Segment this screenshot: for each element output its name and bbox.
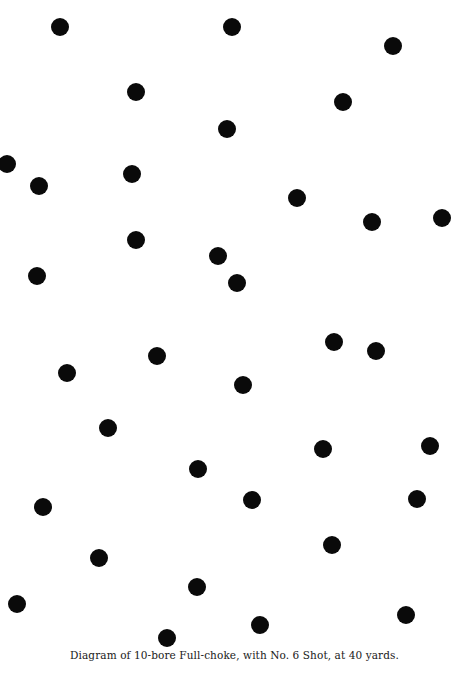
shot-pellet-mark xyxy=(58,364,76,382)
shot-pellet-mark xyxy=(314,440,332,458)
shot-pellet-mark xyxy=(367,342,385,360)
shot-pellet-mark xyxy=(0,155,16,173)
shot-pellet-mark xyxy=(325,333,343,351)
shot-pellet-mark xyxy=(99,419,117,437)
shot-pellet-mark xyxy=(28,267,46,285)
shot-pellet-mark xyxy=(34,498,52,516)
shot-pellet-mark xyxy=(408,490,426,508)
shot-pellet-mark xyxy=(189,460,207,478)
shot-pellet-mark xyxy=(30,177,48,195)
shot-pellet-mark xyxy=(158,629,176,647)
shot-pellet-mark xyxy=(243,491,261,509)
shot-pellet-mark xyxy=(127,83,145,101)
shot-pattern-diagram xyxy=(0,0,469,693)
shot-pellet-mark xyxy=(223,18,241,36)
shot-pellet-mark xyxy=(251,616,269,634)
shot-pellet-mark xyxy=(228,274,246,292)
shot-pellet-mark xyxy=(421,437,439,455)
shot-pellet-mark xyxy=(123,165,141,183)
shot-pellet-mark xyxy=(188,578,206,596)
shot-pellet-mark xyxy=(384,37,402,55)
shot-pellet-mark xyxy=(334,93,352,111)
figure-caption: Diagram of 10-bore Full-choke, with No. … xyxy=(0,649,469,661)
shot-pellet-mark xyxy=(397,606,415,624)
shot-pellet-mark xyxy=(288,189,306,207)
shot-pellet-mark xyxy=(323,536,341,554)
shot-pellet-mark xyxy=(127,231,145,249)
shot-pellet-mark xyxy=(363,213,381,231)
shot-pellet-mark xyxy=(433,209,451,227)
shot-pellet-mark xyxy=(8,595,26,613)
shot-pellet-mark xyxy=(218,120,236,138)
shot-pellet-mark xyxy=(234,376,252,394)
shot-pellet-mark xyxy=(209,247,227,265)
shot-pellet-mark xyxy=(51,18,69,36)
shot-pellet-mark xyxy=(148,347,166,365)
shot-pellet-mark xyxy=(90,549,108,567)
